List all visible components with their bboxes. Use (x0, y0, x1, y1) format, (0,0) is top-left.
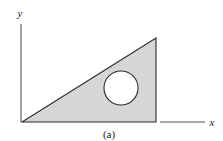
circular-hole (104, 71, 138, 105)
figure-container: y x (a) (0, 0, 223, 141)
x-axis-label: x (209, 116, 215, 128)
figure-canvas: y x (a) (0, 0, 223, 141)
figure-caption: (a) (103, 128, 116, 141)
y-axis-label: y (17, 7, 23, 19)
